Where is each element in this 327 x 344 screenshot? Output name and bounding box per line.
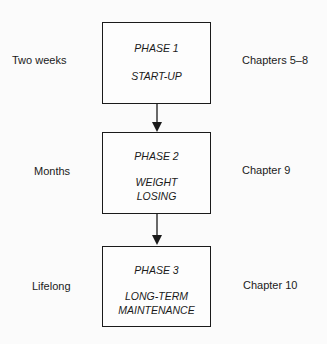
phase-3-chapters: Chapter 10 [243,279,297,292]
phase-3-box: PHASE 3 LONG-TERM MAINTENANCE [102,246,211,327]
arrow-down-icon [150,213,164,246]
phase-3-name-line-1: LONG-TERM [103,290,210,303]
phase-2-chapters: Chapter 9 [242,164,290,177]
phase-2-name-line-1: WEIGHT [103,176,210,189]
phase-2-duration: Months [34,165,70,178]
phase-1-box: PHASE 1 START-UP [102,22,211,104]
phase-3-name-line-2: MAINTENANCE [103,304,210,317]
phase-1-name: START-UP [103,70,210,83]
phase-3-title: PHASE 3 [103,264,210,277]
phase-1-title: PHASE 1 [103,42,210,55]
phase-3-duration: Lifelong [32,280,71,293]
phase-1-chapters: Chapters 5–8 [242,54,308,67]
phase-1-duration: Two weeks [12,54,66,67]
phase-2-name-line-2: LOSING [103,190,210,203]
arrow-down-icon [150,103,164,133]
phase-2-box: PHASE 2 WEIGHT LOSING [102,132,211,214]
phase-2-title: PHASE 2 [103,150,210,163]
